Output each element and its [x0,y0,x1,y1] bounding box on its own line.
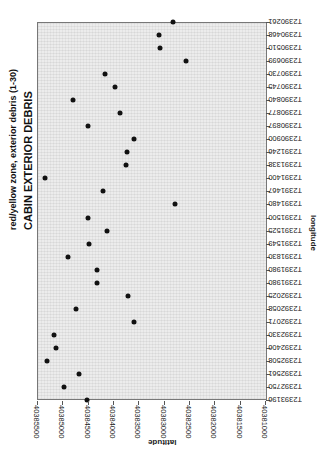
category-tick-label: T2391480 [268,199,302,208]
data-point [103,72,108,77]
category-tick-label: T2392071 [268,317,302,326]
chart-figure: red/yellow zone, exterior debris (1-30) … [0,0,329,459]
category-tick-label: T2392406 [268,343,302,352]
value-tick-label: 40381500 [235,405,244,438]
category-tick-label: T2392058 [268,304,302,313]
data-point [43,176,48,181]
chart-title: CABIN EXTERIOR DEBRIS [22,91,34,230]
data-point [65,254,70,259]
data-point [86,215,91,220]
data-point [86,124,91,129]
data-point [74,306,79,311]
value-tick-label: 40384500 [83,405,92,438]
data-point [118,111,123,116]
data-point [70,98,75,103]
data-point [105,228,110,233]
data-point [54,345,59,350]
data-point [124,163,129,168]
data-point [126,293,131,298]
category-tick-label: T2390510 [268,43,302,52]
category-tick-label: T2391246 [268,147,302,156]
category-tick-label: T2391980 [268,265,302,274]
category-tick-label: T2390900 [268,134,302,143]
category-tick-label: T2391500 [268,213,302,222]
value-tick-label: 40382000 [209,405,218,438]
data-point [171,20,176,25]
category-tick-label: T2390699 [268,56,302,65]
category-tick-label: T2391549 [268,239,302,248]
data-point [156,33,161,38]
data-point [95,280,100,285]
category-tick-label: T2390261 [268,17,302,26]
value-tick-label: 40385000 [57,405,66,438]
category-tick-label: T2392750 [268,382,302,391]
data-point [157,46,162,51]
data-point [52,332,57,337]
category-tick-label: T2390468 [268,30,302,39]
data-point [77,371,82,376]
latitude-axis-title: latitude [148,438,176,447]
data-point [61,384,66,389]
category-tick-label: T2391338 [268,160,302,169]
category-tick-label: T2391467 [268,186,302,195]
value-tick-label: 40384000 [108,405,117,438]
data-point [173,202,178,207]
category-tick-label: T2390840 [268,95,302,104]
category-tick-label: T2391400 [268,173,302,182]
category-tick-label: T2390745 [268,82,302,91]
plot-area [37,22,267,400]
category-tick-label: T2390897 [268,121,302,130]
value-tick-label: 40382500 [184,405,193,438]
value-tick-label: 40381000 [260,405,269,438]
data-point [132,319,137,324]
data-point [45,358,50,363]
longitude-axis-title: longitude [309,215,318,251]
data-point [101,189,106,194]
category-tick-label: T2392025 [268,291,302,300]
category-tick-label: T2391525 [268,226,302,235]
data-point [87,241,92,246]
category-tick-label: T2392561 [268,369,302,378]
category-tick-label: T2390730 [268,69,302,78]
category-tick-label: T2392508 [268,356,302,365]
category-tick-label: T2393196 [268,395,302,404]
data-point [113,85,118,90]
data-point [132,137,137,142]
value-tick-label: 40383500 [133,405,142,438]
category-tick-label: T2391980 [268,278,302,287]
category-tick-label: T2392330 [268,330,302,339]
data-point [184,59,189,64]
data-point [125,150,130,155]
chart-subtitle: red/yellow zone, exterior debris (1-30) [8,69,18,230]
value-tick-label: 40383000 [159,405,168,438]
category-tick-label: T2390877 [268,108,302,117]
data-point [95,267,100,272]
category-tick-label: T2391830 [268,252,302,261]
value-tick-label: 40385500 [32,405,41,438]
